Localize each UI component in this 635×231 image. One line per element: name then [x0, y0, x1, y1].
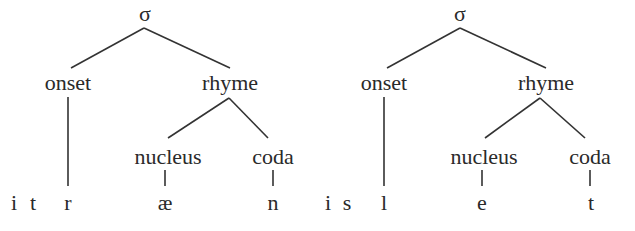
- segment-pre-2: t: [30, 192, 36, 214]
- segment-nucleus: e: [477, 192, 487, 214]
- coda-node: coda: [252, 146, 294, 168]
- branch-rhyme-nucleus-left: [168, 98, 229, 138]
- segment-coda: t: [588, 192, 594, 214]
- nucleus-node: nucleus: [450, 146, 517, 168]
- segment-pre-1: i: [11, 192, 17, 214]
- segment-onset: r: [64, 192, 71, 214]
- branch-sigma-onset-right: [387, 28, 460, 68]
- rhyme-node: rhyme: [518, 72, 574, 94]
- branch-sigma-rhyme-right: [460, 28, 546, 68]
- sigma-node: σ: [139, 3, 151, 25]
- segment-nucleus: æ: [158, 192, 173, 214]
- segment-onset: l: [381, 192, 387, 214]
- nucleus-node: nucleus: [134, 146, 201, 168]
- segment-pre-1: i: [325, 192, 331, 214]
- rhyme-node: rhyme: [202, 72, 258, 94]
- branch-sigma-rhyme-left: [144, 28, 230, 68]
- branch-rhyme-nucleus-right: [485, 98, 540, 138]
- branch-rhyme-coda-right: [540, 98, 585, 138]
- tree-branches: [0, 0, 635, 231]
- onset-node: onset: [361, 72, 407, 94]
- onset-node: onset: [45, 72, 91, 94]
- coda-node: coda: [569, 146, 611, 168]
- segment-pre-2: s: [343, 192, 352, 214]
- segment-coda: n: [268, 192, 279, 214]
- sigma-node: σ: [454, 3, 466, 25]
- branch-rhyme-coda-left: [229, 98, 268, 138]
- branch-sigma-onset-left: [71, 28, 144, 68]
